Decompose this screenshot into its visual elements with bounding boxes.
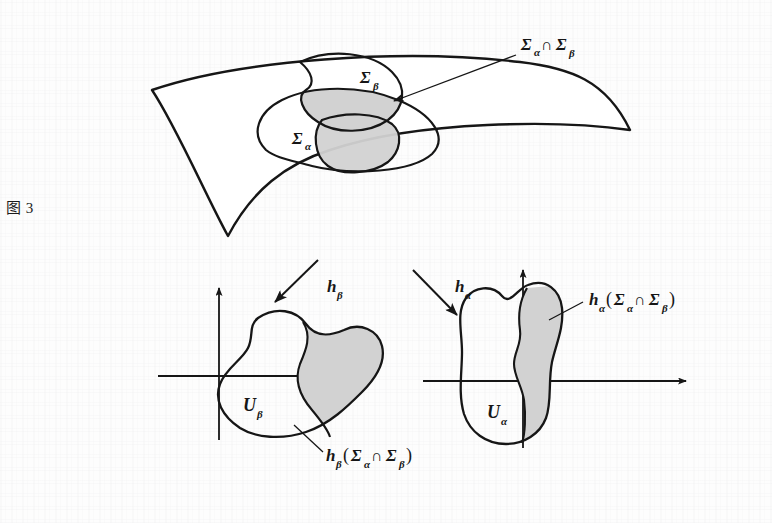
intersection-sigma2: Σ xyxy=(555,35,567,54)
hbi-fn: h xyxy=(326,446,335,465)
intersection-operator: ∩ xyxy=(541,36,553,53)
figure-page: 图 3 xyxy=(0,0,772,523)
h-beta-image-leader xyxy=(294,425,323,452)
chart-u-beta: U β h β ( Σ α ∩ Σ β ) xyxy=(158,288,412,470)
intersection-sigma1: Σ xyxy=(520,35,532,54)
u-beta-subscript: β xyxy=(256,408,263,420)
hai-fn: h xyxy=(589,290,598,309)
u-alpha-symbol: U xyxy=(487,402,501,422)
h-beta-subscript: β xyxy=(336,289,343,301)
hai-s2-sub: β xyxy=(661,302,668,314)
hbi-op: ∩ xyxy=(371,447,383,464)
hai-s1-sub: α xyxy=(627,302,634,314)
h-beta-symbol: h xyxy=(327,277,336,296)
hbi-s1: Σ xyxy=(350,446,362,465)
h-beta-arrow-line xyxy=(275,260,318,302)
hbi-s1-sub: α xyxy=(364,458,371,470)
hbi-s2-sub: β xyxy=(398,458,405,470)
sigma-alpha-subscript: α xyxy=(305,140,312,152)
map-arrow-h-beta: h β xyxy=(275,260,343,302)
u-alpha-subscript: α xyxy=(501,415,508,427)
map-arrow-h-alpha: h α xyxy=(413,270,472,315)
label-u-beta: U β xyxy=(243,395,263,420)
chart-u-alpha: U α h α ( Σ α ∩ Σ β ) xyxy=(423,270,686,448)
hbi-fn-sub: β xyxy=(335,458,342,470)
hai-s2: Σ xyxy=(648,290,660,309)
intersection-sub1: α xyxy=(534,46,541,58)
h-beta-image-shade xyxy=(298,306,400,444)
intersection-sub2: β xyxy=(568,47,575,59)
hbi-close: ) xyxy=(406,445,412,466)
label-h-alpha-image: h α ( Σ α ∩ Σ β ) xyxy=(589,289,675,314)
h-alpha-arrow-line xyxy=(413,270,457,315)
label-sigma-intersection: Σ α ∩ Σ β xyxy=(520,35,575,59)
label-u-alpha: U α xyxy=(487,402,508,427)
label-h-beta-image: h β ( Σ α ∩ Σ β ) xyxy=(326,445,412,470)
h-alpha-symbol: h xyxy=(455,277,464,296)
h-alpha-image-shade xyxy=(514,282,600,446)
u-beta-symbol: U xyxy=(243,395,257,415)
hbi-s2: Σ xyxy=(385,446,397,465)
figure-drawing: Σ α Σ β Σ α ∩ Σ β h β h α xyxy=(0,0,772,523)
sigma-beta-subscript: β xyxy=(372,80,379,92)
sigma-beta-symbol: Σ xyxy=(359,68,371,87)
hai-open: ( xyxy=(606,289,612,310)
hai-op: ∩ xyxy=(634,291,646,308)
hai-s1: Σ xyxy=(613,290,625,309)
hai-close: ) xyxy=(669,289,675,310)
sigma-alpha-symbol: Σ xyxy=(291,129,303,148)
hai-fn-sub: α xyxy=(599,302,606,314)
hbi-open: ( xyxy=(343,445,349,466)
